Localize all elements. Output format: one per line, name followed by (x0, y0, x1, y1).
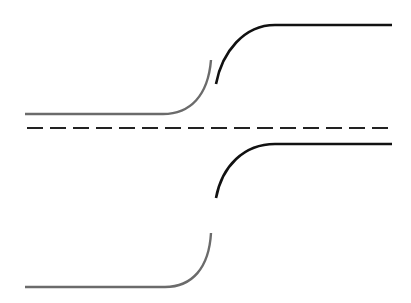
lower-right-black-curve (216, 144, 392, 198)
diagram-canvas (0, 0, 411, 303)
profile-diagram (0, 0, 411, 303)
lower-left-gray-curve (25, 233, 211, 287)
upper-left-gray-curve (25, 60, 211, 114)
upper-right-black-curve (216, 25, 392, 84)
